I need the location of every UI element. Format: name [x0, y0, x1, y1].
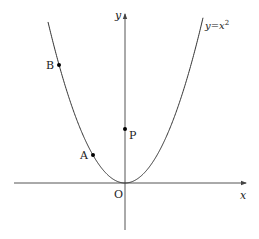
point-b-dot — [57, 63, 61, 67]
point-b-label: B — [46, 59, 54, 72]
y-axis-label: y — [114, 9, 122, 22]
curve-label: y=x2 — [204, 19, 229, 31]
origin-label: O — [114, 188, 123, 201]
x-axis-label: x — [240, 189, 247, 202]
curve-label-eq: = — [211, 20, 219, 31]
parabola-diagram: y x O y=x2 B A P — [0, 0, 259, 239]
point-p-label: P — [129, 129, 137, 142]
point-a-dot — [91, 153, 95, 157]
point-p-dot — [123, 127, 127, 131]
point-a-label: A — [79, 149, 89, 162]
curve-label-exp: 2 — [225, 19, 229, 27]
